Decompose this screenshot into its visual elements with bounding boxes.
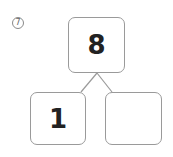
part-left-box: 1 xyxy=(30,92,86,145)
whole-number-box: 8 xyxy=(68,17,125,73)
part-left-number: 1 xyxy=(49,104,67,134)
part-right-answer-box[interactable] xyxy=(105,92,162,145)
whole-number: 8 xyxy=(87,30,105,60)
